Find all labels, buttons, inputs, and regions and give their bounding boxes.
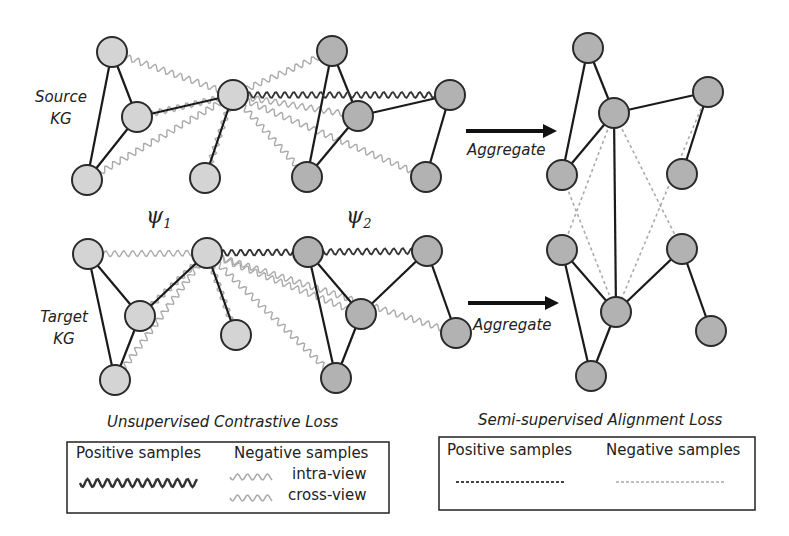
intra-view-negative-wave [88,250,207,257]
semisupervised-loss-title: Semi-supervised Alignment Loss [478,411,722,429]
legend-wave-samples [80,474,272,501]
entity-node [412,236,442,266]
entity-node [72,165,102,195]
entity-node [321,363,351,393]
source-kg-label-line1: Source [26,86,96,108]
target-kg-label: Target KG [29,306,99,350]
legend-intra-view-wave-icon [230,474,272,480]
unsupervised-positive-label: Positive samples [76,444,201,462]
alignment-negative-link [616,92,708,312]
entity-node [435,80,465,110]
entity-node [218,80,248,110]
entity-node [693,77,723,107]
alignment-positive-link [614,113,616,312]
entity-node [696,316,726,346]
graph-edge [308,252,336,378]
psi2-symbol: ψ [346,203,363,228]
semisupervised-negative-label: Negative samples [606,441,740,459]
entity-node [100,365,130,395]
entity-node [601,297,631,327]
intra-view-label: intra-view [292,465,366,483]
entity-node [441,318,471,348]
entity-node [599,98,629,128]
entity-node [192,238,222,268]
graph-edge [307,51,332,177]
legend-cross-view-wave-icon [230,495,272,501]
psi1-subscript: 1 [163,216,171,231]
psi2-subscript: 2 [363,216,371,231]
entity-node [573,33,603,63]
target-kg-label-line2: KG [29,328,99,350]
graph-edge [562,48,588,175]
entity-node [292,162,322,192]
psi1-view-label: ψ1 [146,203,172,231]
aggregate-label-bottom: Aggregate [473,316,552,334]
semisupervised-positive-label: Positive samples [447,441,572,459]
entity-node [547,160,577,190]
entity-node [190,163,220,193]
unsupervised-negative-label: Negative samples [234,444,368,462]
positive-sample-wave [233,92,450,98]
aggregate-label-top: Aggregate [467,141,546,159]
unsupervised-loss-title: Unsupervised Contrastive Loss [107,413,338,431]
entity-node [667,234,697,264]
target-kg-label-line1: Target [29,306,99,328]
entity-node [317,36,347,66]
entity-node [346,299,376,329]
arrowhead-top-icon [543,124,557,138]
source-kg-label: Source KG [26,86,96,130]
source-kg-label-line2: KG [26,108,96,130]
cross-view-label: cross-view [288,486,366,504]
psi1-symbol: ψ [146,203,163,228]
entity-node [73,239,103,269]
psi2-view-label: ψ2 [346,203,372,231]
entity-node [576,361,606,391]
entity-node [221,320,251,350]
legend-positive-wave-icon [80,479,197,487]
entity-node [122,102,152,132]
entity-node [343,101,373,131]
alignment-dashed-links [562,92,708,312]
entity-node [293,237,323,267]
entity-node [667,159,697,189]
graph-edge [562,250,591,376]
entity-node [97,37,127,67]
entity-node [411,162,441,192]
arrowhead-bottom-icon [545,296,559,310]
intra-view-negative-wave [113,49,233,95]
entity-node [125,301,155,331]
cross-view-negative-wave [207,253,360,316]
entity-node [547,235,577,265]
